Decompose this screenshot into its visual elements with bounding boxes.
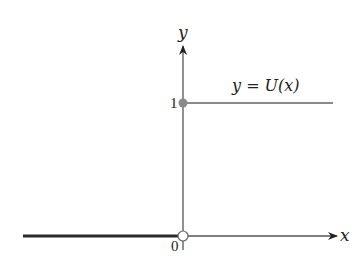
function-label: y = U(x) <box>231 76 300 95</box>
tick-label-one: 1 <box>170 95 178 111</box>
x-axis-label: x <box>340 225 350 245</box>
unit-step-graph: y x 1 0 y = U(x) <box>0 0 359 264</box>
origin-label: 0 <box>171 238 179 254</box>
closed-endpoint-dot <box>179 99 188 108</box>
open-endpoint-dot <box>178 231 188 241</box>
y-axis-label: y <box>177 22 188 42</box>
